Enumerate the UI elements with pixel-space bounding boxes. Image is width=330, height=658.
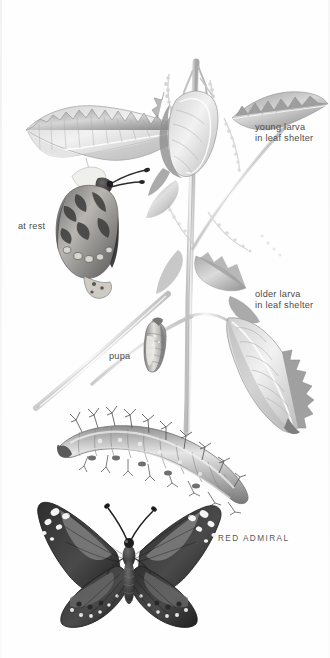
life-cycle-artwork: [0, 0, 330, 658]
mature-caterpillar-figure: [57, 406, 248, 515]
label-pupa: pupa: [109, 351, 130, 362]
label-young-larva: young larva in leaf shelter: [255, 122, 313, 145]
adult-butterfly-at-rest-figure: [56, 158, 150, 298]
label-at-rest: at rest: [18, 221, 45, 232]
adult-butterfly-spread-figure: [38, 502, 221, 627]
illustration-plate: young larva in leaf shelter at rest olde…: [0, 0, 330, 658]
older-larva-leaf-shelter-figure: [190, 314, 314, 434]
label-older-larva: older larva in leaf shelter: [255, 289, 313, 312]
label-species-name: RED ADMIRAL: [218, 533, 289, 544]
